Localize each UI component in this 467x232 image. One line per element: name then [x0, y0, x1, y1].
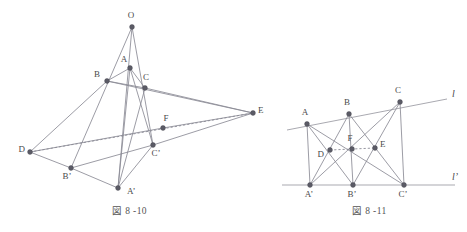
- vertex-A: [128, 66, 133, 71]
- vertex-label-O: O: [128, 10, 135, 20]
- axis-line-label-lp: l’: [452, 171, 459, 182]
- vertex-B: [105, 79, 110, 84]
- vertex-label-Ap: A’: [127, 186, 136, 196]
- segment-C-Cp: [400, 102, 404, 185]
- vertex-label-C: C: [143, 72, 149, 82]
- vertex-Cp: [151, 143, 156, 148]
- vertex-label-B: B: [344, 97, 350, 107]
- vertex-label-Cp: C’: [152, 148, 161, 158]
- segment-C-Ap: [310, 102, 400, 185]
- segment-D-Bp: [30, 152, 71, 168]
- segment-Bp-Cp: [71, 145, 153, 168]
- vertex-B: [347, 112, 352, 117]
- figure-8-11-caption: 図 8 -11: [352, 203, 387, 217]
- vertex-label-D: D: [19, 144, 26, 154]
- segment-A-Ap: [118, 68, 130, 188]
- figure-8-10-group: OABCDEFC’B’A’: [19, 10, 265, 196]
- vertex-label-F: F: [347, 133, 352, 143]
- segment-F-E: [163, 113, 253, 128]
- vertex-label-Bp: B’: [63, 171, 72, 181]
- vertex-F: [350, 147, 355, 152]
- vertex-O: [130, 25, 135, 30]
- segment-C-E: [145, 88, 253, 113]
- vertex-label-Bp: B’: [348, 189, 357, 199]
- vertex-label-F: F: [163, 113, 168, 123]
- segment-A-B: [107, 68, 130, 81]
- vertex-label-Ap: A’: [305, 189, 314, 199]
- vertex-label-A: A: [121, 54, 128, 64]
- vertex-Bp: [69, 166, 74, 171]
- vertex-label-D: D: [318, 149, 325, 159]
- vertex-label-Cp: C’: [399, 189, 408, 199]
- segment-A-Bp: [307, 124, 353, 185]
- segment-A-Ap: [307, 124, 310, 185]
- segment-D-F: [30, 128, 163, 152]
- figure-8-10-caption: 図 8 -10: [112, 203, 147, 217]
- axis-line-label-l: l: [452, 88, 455, 99]
- vertex-label-C: C: [395, 85, 401, 95]
- axis-line-l: [287, 99, 447, 130]
- vertex-label-E: E: [380, 139, 386, 149]
- vertex-C: [143, 86, 148, 91]
- segment-O-Bp: [71, 27, 132, 168]
- vertex-D: [28, 150, 33, 155]
- segment-D-B: [30, 81, 107, 152]
- segment-C-Bp: [353, 102, 400, 185]
- vertex-Ap: [116, 186, 121, 191]
- vertex-label-B: B: [94, 69, 100, 79]
- vertex-Cp: [402, 183, 407, 188]
- vertex-E: [251, 111, 256, 116]
- vertex-C: [398, 100, 403, 105]
- vertex-Bp: [351, 183, 356, 188]
- vertex-Ap: [308, 183, 313, 188]
- vertex-F: [161, 126, 166, 131]
- vertex-label-E: E: [258, 105, 264, 115]
- vertex-E: [373, 146, 378, 151]
- segment-Cp-Ap: [118, 145, 153, 188]
- vertex-D: [328, 148, 333, 153]
- figure-8-11-group: ll’ABCDFEA’B’C’: [282, 85, 459, 199]
- vertex-label-A: A: [302, 107, 309, 117]
- figure-page: OABCDEFC’B’A’ ll’ABCDFEA’B’C’ 図 8 -10 図 …: [0, 0, 467, 232]
- segment-Ap-Bp: [71, 168, 118, 188]
- geometry-diagram: OABCDEFC’B’A’ ll’ABCDFEA’B’C’: [0, 0, 467, 232]
- vertex-A: [305, 122, 310, 127]
